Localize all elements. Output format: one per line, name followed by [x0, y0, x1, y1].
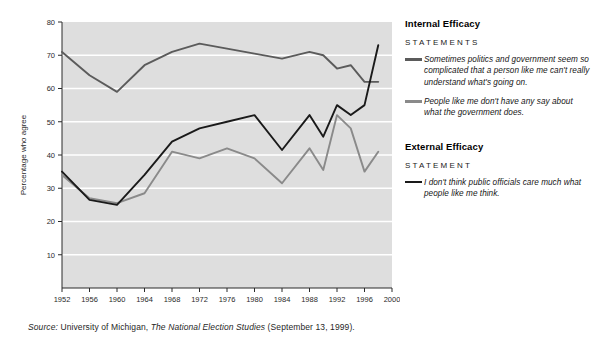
- legend-subheading: STATEMENT: [405, 161, 591, 170]
- source-publisher: University of Michigan,: [58, 322, 151, 332]
- legend-entry-label: People like me don't have any say about …: [424, 96, 591, 119]
- chart-page: 1020304050607080195219561960196419681972…: [0, 0, 598, 349]
- x-axis-tick-label: 2000: [384, 295, 400, 304]
- legend-group: External EfficacySTATEMENTI don't think …: [405, 141, 591, 200]
- x-axis-tick-label: 1972: [191, 295, 208, 304]
- y-axis-tick-label: 60: [47, 84, 55, 93]
- x-axis-tick-label: 1992: [329, 295, 346, 304]
- source-note: Source: University of Michigan, The Nati…: [28, 322, 355, 332]
- legend-entry-label: I don't think public officials care much…: [424, 177, 591, 200]
- x-axis-tick-label: 1952: [54, 295, 71, 304]
- legend-group: Internal EfficacySTATEMENTSSometimes pol…: [405, 18, 591, 119]
- legend-subheading: STATEMENTS: [405, 38, 591, 47]
- y-axis-tick-label: 20: [47, 217, 55, 226]
- x-axis-tick-label: 1988: [301, 295, 318, 304]
- x-axis-tick-label: 1968: [164, 295, 181, 304]
- legend-line-swatch-icon: [405, 58, 422, 61]
- y-axis-tick-label: 30: [47, 184, 55, 193]
- legend-heading: External Efficacy: [405, 141, 591, 152]
- legend-entry[interactable]: I don't think public officials care much…: [405, 177, 591, 200]
- x-axis-tick-label: 1996: [356, 295, 373, 304]
- y-axis-tick-label: 80: [47, 18, 55, 27]
- x-axis-tick-label: 1956: [81, 295, 98, 304]
- y-axis-tick-label: 50: [47, 118, 55, 127]
- legend-line-swatch-icon: [405, 181, 422, 184]
- legend-entry[interactable]: People like me don't have any say about …: [405, 96, 591, 119]
- y-axis-title: Percentage who agree: [19, 114, 28, 195]
- legend-heading: Internal Efficacy: [405, 18, 591, 29]
- line-chart-figure: 1020304050607080195219561960196419681972…: [0, 0, 400, 315]
- chart-canvas: 1020304050607080195219561960196419681972…: [0, 0, 400, 315]
- y-axis-tick-label: 40: [47, 151, 55, 160]
- source-label: Source:: [28, 322, 58, 332]
- legend-entry[interactable]: Sometimes politics and government seem s…: [405, 54, 591, 88]
- source-detail: (September 13, 1999).: [265, 322, 355, 332]
- x-axis-tick-label: 1976: [219, 295, 236, 304]
- x-axis-tick-label: 1964: [136, 295, 153, 304]
- y-axis-tick-label: 70: [47, 51, 55, 60]
- legend-group-gap: [405, 127, 591, 141]
- y-axis-tick-label: 10: [47, 251, 55, 260]
- legend-line-swatch-icon: [405, 100, 422, 103]
- source-title: The National Election Studies: [151, 322, 265, 332]
- x-axis-tick-label: 1980: [246, 295, 263, 304]
- legend-panel: Internal EfficacySTATEMENTSSometimes pol…: [405, 18, 591, 207]
- legend-entry-label: Sometimes politics and government seem s…: [424, 54, 591, 88]
- x-axis-tick-label: 1960: [109, 295, 126, 304]
- x-axis-tick-label: 1984: [274, 295, 291, 304]
